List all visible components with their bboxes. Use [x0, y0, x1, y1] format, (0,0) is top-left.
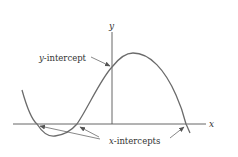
- y-intercept-arrow: [91, 57, 110, 66]
- function-graph-diagram: x y y-intercept x-intercepts: [0, 0, 238, 157]
- y-axis-label: y: [108, 21, 115, 31]
- x-intercepts-label: x-intercepts: [109, 136, 160, 146]
- x-intercept-arrow-right: [170, 127, 184, 138]
- x-axis-label: x: [209, 119, 214, 129]
- y-intercept-label: y-intercept: [38, 53, 87, 63]
